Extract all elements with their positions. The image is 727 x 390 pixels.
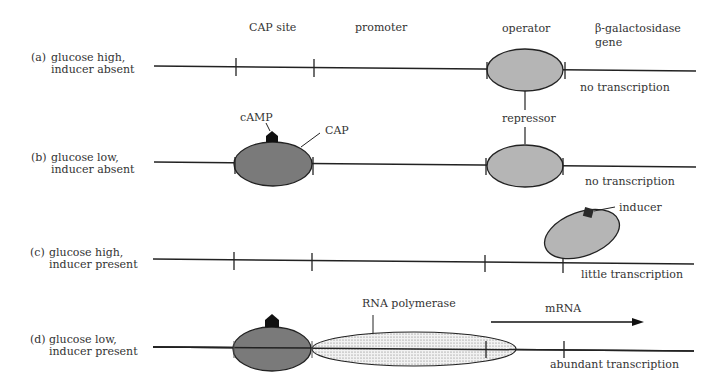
transcription-result: little transcription xyxy=(581,268,683,281)
row-condition-line2: inducer absent xyxy=(51,63,135,76)
transcription-result: no transcription xyxy=(580,81,670,94)
repressor-shape xyxy=(487,145,563,187)
header-promoter: promoter xyxy=(355,21,408,34)
row-condition-line2: inducer present xyxy=(49,345,138,358)
repressor-shape xyxy=(487,49,563,91)
camp-label: cAMP xyxy=(240,111,273,124)
released-repressor-shape xyxy=(538,200,626,268)
header-gene-line1: β-galactosidase xyxy=(595,22,681,35)
row-tag: (c) xyxy=(30,246,45,259)
camp-molecule-icon xyxy=(265,314,279,327)
cap-protein-shape xyxy=(234,142,312,186)
camp-connector xyxy=(266,123,270,131)
cap-connector xyxy=(301,133,320,147)
row-a: (a) glucose high, inducer absent no tran… xyxy=(31,49,696,94)
dna-strand xyxy=(154,66,696,71)
rna-polymerase-label: RNA polymerase xyxy=(362,297,456,310)
row-tag: (d) xyxy=(30,333,46,346)
inducer-label: inducer xyxy=(619,201,662,214)
header-cap-site: CAP site xyxy=(249,21,296,34)
cap-protein-shape xyxy=(233,327,311,371)
repressor-label: repressor xyxy=(502,112,556,125)
row-condition-line2: inducer absent xyxy=(51,163,135,176)
camp-molecule-icon xyxy=(266,131,278,142)
lac-operon-diagram: CAP site promoter operator β-galactosida… xyxy=(0,0,727,390)
header-gene-line2: gene xyxy=(595,36,622,49)
row-b: (b) glucose low, inducer absent cAMP CAP… xyxy=(31,111,696,188)
header-operator: operator xyxy=(502,22,551,35)
row-d: (d) glucose low, inducer present RNA pol… xyxy=(30,297,694,371)
cap-label: CAP xyxy=(325,124,349,137)
transcription-result: abundant transcription xyxy=(550,358,679,371)
arrow-right-icon xyxy=(632,318,644,326)
row-tag: (b) xyxy=(31,151,47,164)
transcription-result: no transcription xyxy=(585,175,675,188)
row-condition-line2: inducer present xyxy=(49,258,138,271)
row-tag: (a) xyxy=(31,51,46,64)
mrna-label: mRNA xyxy=(545,302,582,315)
row-c: (c) glucose high, inducer present induce… xyxy=(30,200,694,281)
dna-strand-cap-overlay xyxy=(153,347,312,348)
